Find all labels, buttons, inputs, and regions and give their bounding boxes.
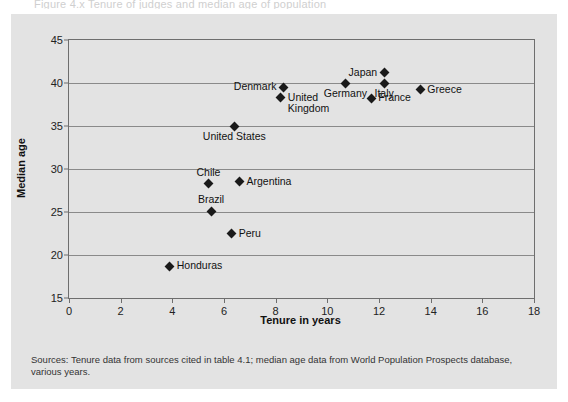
y-tick-label-20: 20 (51, 249, 63, 261)
y-tick-label-30: 30 (51, 163, 63, 175)
x-tick-label-8: 8 (273, 305, 279, 317)
y-tick-mark-25 (64, 212, 69, 213)
data-point-label: United States (203, 131, 266, 142)
y-tick-label-45: 45 (51, 34, 63, 46)
y-tick-mark-45 (64, 40, 69, 41)
cut-off-figure-title: Figure 4.x Tenure of judges and median a… (0, 0, 568, 9)
data-point-label: France (378, 92, 411, 103)
diamond-marker-icon (204, 179, 214, 189)
diamond-marker-icon (276, 93, 286, 103)
y-tick-label-35: 35 (51, 120, 63, 132)
x-tick-mark-12 (379, 298, 380, 303)
diamond-marker-icon (379, 68, 389, 78)
y-tick-label-15: 15 (51, 292, 63, 304)
x-tick-mark-18 (534, 298, 535, 303)
data-point-label: Argentina (247, 176, 292, 187)
x-tick-label-4: 4 (169, 305, 175, 317)
x-tick-mark-6 (224, 298, 225, 303)
source-note: Sources: Tenure data from sources cited … (31, 354, 543, 378)
y-tick-mark-40 (64, 83, 69, 84)
x-tick-mark-8 (276, 298, 277, 303)
y-axis-title: Median age (15, 138, 27, 198)
x-axis-title: Tenure in years (68, 314, 533, 326)
diamond-marker-icon (227, 229, 237, 239)
x-tick-label-14: 14 (425, 305, 437, 317)
y-tick-mark-30 (64, 169, 69, 170)
y-tick-mark-35 (64, 126, 69, 127)
x-tick-mark-14 (431, 298, 432, 303)
data-point-label: Honduras (177, 260, 223, 271)
data-point-label: Greece (427, 84, 461, 95)
x-tick-mark-2 (121, 298, 122, 303)
x-tick-label-2: 2 (118, 305, 124, 317)
x-tick-label-16: 16 (476, 305, 488, 317)
data-point-label: Peru (239, 228, 261, 239)
x-tick-label-18: 18 (528, 305, 540, 317)
diamond-marker-icon (235, 177, 245, 187)
y-tick-mark-20 (64, 255, 69, 256)
x-tick-label-0: 0 (66, 305, 72, 317)
plot-area: 15202530354045 024681012141618 JapanItal… (68, 39, 535, 299)
diamond-marker-icon (206, 206, 216, 216)
figure-panel: Median age Tenure in years 1520253035404… (11, 14, 557, 389)
diamond-marker-icon (165, 261, 175, 271)
gridline-y-40 (69, 83, 534, 84)
gridline-y-25 (69, 212, 534, 213)
x-tick-mark-4 (172, 298, 173, 303)
gridline-y-20 (69, 255, 534, 256)
data-point-label: Denmark (234, 81, 277, 92)
data-point-label: Chile (197, 167, 221, 178)
x-tick-mark-0 (69, 298, 70, 303)
data-point-label: Germany (324, 88, 367, 99)
x-tick-label-10: 10 (321, 305, 333, 317)
x-tick-mark-16 (482, 298, 483, 303)
y-tick-label-40: 40 (51, 77, 63, 89)
gridline-y-35 (69, 126, 534, 127)
data-point-label: Japan (349, 67, 378, 78)
data-point-label: Brazil (198, 194, 224, 205)
y-tick-label-25: 25 (51, 206, 63, 218)
x-tick-mark-10 (327, 298, 328, 303)
data-point-label: UnitedKingdom (288, 92, 329, 114)
x-tick-label-12: 12 (373, 305, 385, 317)
gridline-y-30 (69, 169, 534, 170)
diamond-marker-icon (415, 85, 425, 95)
x-tick-label-6: 6 (221, 305, 227, 317)
